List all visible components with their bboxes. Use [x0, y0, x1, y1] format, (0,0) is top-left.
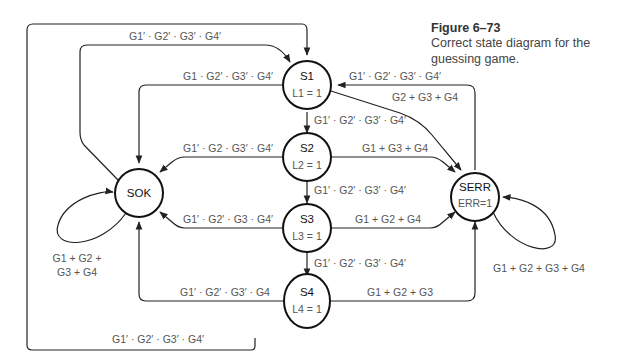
label-sok-self-1: G1 + G2 +	[52, 252, 101, 264]
edge-sok-to-s1	[80, 45, 290, 180]
label-sok-self-2: G3 + G4	[57, 266, 97, 278]
state-s4: S4 L4 = 1	[284, 274, 330, 328]
label-s4-to-serr: G1 + G2 + G3	[367, 286, 433, 298]
svg-text:S4: S4	[300, 286, 315, 298]
label-s3-to-serr: G1 + G2 + G4	[355, 213, 421, 225]
svg-text:S2: S2	[300, 142, 314, 154]
label-s2-to-sok: G1′ · G2 · G3′ · G4′	[183, 142, 273, 154]
svg-text:SERR: SERR	[459, 181, 491, 193]
state-s3: S3 L3 = 1	[283, 204, 331, 252]
caption-title: Figure 6–73	[431, 21, 621, 35]
svg-text:SOK: SOK	[127, 187, 152, 199]
figure-caption: Figure 6–73 Correct state diagram for th…	[431, 21, 621, 67]
edge-s2-to-serr	[331, 157, 455, 172]
state-serr: SERR ERR=1	[451, 173, 499, 221]
svg-text:L3 = 1: L3 = 1	[292, 230, 322, 242]
label-s1-to-s2: G1′ · G2′ · G3′ · G4′	[314, 114, 406, 126]
svg-text:S1: S1	[300, 70, 314, 82]
svg-text:ERR=1: ERR=1	[458, 197, 492, 209]
svg-text:L4 = 1: L4 = 1	[292, 303, 322, 315]
label-s4-to-sok: G1′ · G2′ · G3′ · G4	[180, 286, 270, 298]
caption-text: Correct state diagram for the guessing g…	[431, 35, 621, 67]
label-s3-to-s4: G1′ · G2′ · G3′ · G4′	[314, 257, 406, 269]
svg-text:S3: S3	[300, 213, 314, 225]
state-s1: S1 L1 = 1	[283, 61, 331, 109]
label-s1-to-sok: G1 · G2′ · G3′ · G4′	[183, 70, 273, 82]
svg-text:L2 = 1: L2 = 1	[292, 159, 322, 171]
label-serr-to-s1: G1′ · G2′ · G3′ · G4′	[349, 70, 441, 82]
edge-serr-self-loop	[493, 197, 555, 249]
label-s3-to-sok: G1′ · G2′ · G3 · G4′	[183, 213, 273, 225]
label-s2-to-serr: G1 + G3 + G4	[362, 142, 428, 154]
svg-text:L1 = 1: L1 = 1	[292, 87, 322, 99]
label-s1-to-serr: G2 + G3 + G4	[392, 91, 458, 103]
label-sok-to-s1: G1′ · G2′ · G3′ · G4′	[129, 30, 221, 42]
state-s2: S2 L2 = 1	[283, 133, 331, 181]
label-s2-to-s3: G1′ · G2′ · G3′ · G4′	[314, 184, 406, 196]
state-diagram: S1 L1 = 1 S2 L2 = 1 S3 L3 = 1 S4 L4 = 1 …	[0, 0, 631, 361]
state-sok: SOK	[115, 169, 163, 217]
label-serr-self: G1 + G2 + G3 + G4	[493, 262, 585, 274]
label-s4-to-s1: G1′ · G2′ · G3′ · G4′	[112, 333, 204, 345]
edge-s2-to-sok	[160, 157, 283, 172]
